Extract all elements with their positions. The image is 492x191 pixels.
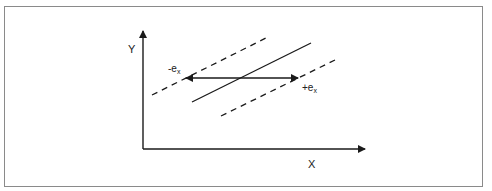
- plus-ex-subscript: x: [313, 87, 317, 94]
- y-axis-label: Y: [128, 43, 136, 55]
- lower-bound-dashed-line: [221, 60, 335, 116]
- plus-ex-label: +ex: [302, 82, 317, 94]
- error-band-diagram: Y X -ex +ex: [0, 0, 492, 191]
- minus-ex-label: -ex: [168, 63, 181, 75]
- minus-ex-subscript: x: [177, 68, 181, 75]
- regression-line: [192, 43, 311, 102]
- x-axis-label: X: [308, 158, 316, 170]
